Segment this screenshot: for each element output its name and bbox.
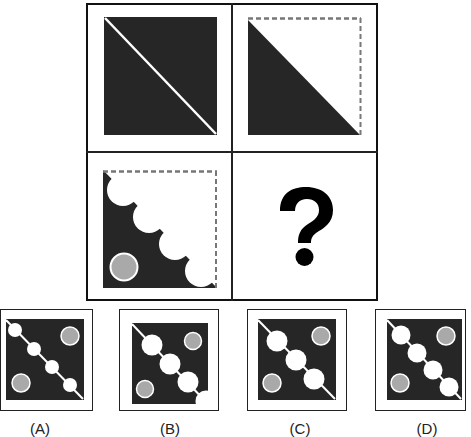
option-d-figure xyxy=(387,319,462,400)
cell-top-left-figure xyxy=(104,17,217,135)
option-c-figure xyxy=(258,319,336,400)
option-c[interactable] xyxy=(247,309,347,411)
option-c-label: (C) xyxy=(270,420,330,437)
option-b-figure xyxy=(132,323,208,404)
option-b-label: (B) xyxy=(140,420,200,437)
option-a-figure xyxy=(6,319,84,400)
grid-divider-horizontal xyxy=(86,151,378,153)
cell-bottom-left-figure xyxy=(103,170,218,289)
option-d[interactable] xyxy=(375,309,466,411)
option-b[interactable] xyxy=(119,309,219,411)
option-a-label: (A) xyxy=(10,420,70,437)
option-d-label: (D) xyxy=(397,420,457,437)
option-a[interactable] xyxy=(0,309,93,411)
cell-top-right-figure xyxy=(248,17,362,136)
question-mark-icon xyxy=(270,183,342,269)
